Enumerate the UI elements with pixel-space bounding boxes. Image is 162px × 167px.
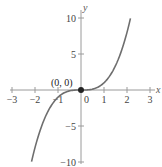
x-tick-label: 2 — [125, 94, 130, 105]
origin-point-marker — [78, 87, 84, 93]
y-tick-label: −5 — [65, 121, 76, 132]
x-tick-label: −3 — [7, 94, 18, 105]
y-tick-label: −10 — [60, 157, 76, 167]
x-tick-label: −2 — [30, 94, 41, 105]
x-tick-label: 3 — [148, 94, 153, 105]
y-tick-label: 10 — [66, 13, 76, 24]
x-tick-label: −1 — [53, 94, 64, 105]
y-tick-label: 5 — [71, 49, 76, 60]
x-tick-label: 1 — [102, 94, 107, 105]
x-tick-label: 0 — [84, 94, 89, 105]
function-graph: −3−2−10123 −10−5510 x y (0, 0) — [0, 0, 162, 166]
y-axis-label: y — [82, 2, 88, 13]
origin-point-label: (0, 0) — [51, 77, 73, 89]
x-axis-label: x — [155, 84, 161, 95]
